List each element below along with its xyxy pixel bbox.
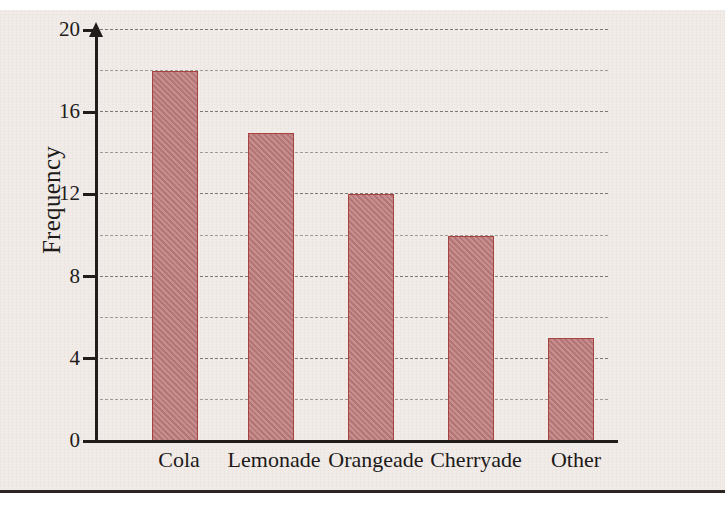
y-axis-line [95, 34, 98, 443]
bar-chart: 0 4 8 12 16 20 Frequency Cola Lemonade O… [0, 0, 725, 511]
y-tick-label-4: 4 [34, 348, 80, 369]
plot-area [96, 30, 618, 441]
x-axis-line [90, 440, 618, 443]
bar-other[interactable] [548, 338, 594, 441]
x-category-label-other: Other [514, 449, 638, 471]
bar-cola[interactable] [152, 71, 198, 441]
bar-lemonade[interactable] [248, 133, 294, 441]
y-tick-mark-20 [83, 29, 96, 32]
y-tick-mark-12 [83, 193, 96, 196]
y-tick-mark-0 [83, 440, 96, 443]
y-axis-tick-labels: 0 4 8 12 16 20 Frequency [20, 0, 80, 511]
y-tick-label-0: 0 [34, 430, 80, 451]
bar-cherryade[interactable] [448, 236, 494, 442]
y-axis-title: Frequency [38, 120, 66, 280]
y-tick-mark-8 [83, 275, 96, 278]
y-tick-mark-16 [83, 111, 96, 114]
chart-page: 0 4 8 12 16 20 Frequency Cola Lemonade O… [0, 0, 725, 511]
y-tick-mark-4 [83, 357, 96, 360]
bar-orangeade[interactable] [348, 194, 394, 441]
y-tick-label-20: 20 [34, 19, 80, 40]
gridline-20 [100, 29, 608, 30]
